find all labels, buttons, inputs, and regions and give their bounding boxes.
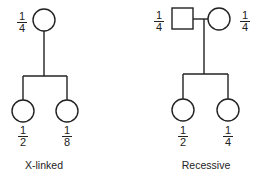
numerator: 1: [152, 11, 166, 20]
xlinked-daughter2-probability: 1 8: [60, 126, 74, 147]
recessive-mother-circle: [208, 8, 230, 30]
recessive-daughter2-probability: 1 4: [221, 126, 235, 147]
numerator: 1: [238, 11, 252, 20]
pedigree-diagram: [0, 0, 261, 177]
denominator: 4: [238, 23, 252, 32]
recessive-mother-probability: 1 4: [238, 11, 252, 32]
denominator: 4: [221, 138, 235, 147]
denominator: 8: [60, 138, 74, 147]
recessive-daughter1-circle: [172, 99, 194, 121]
xlinked-daughter1-probability: 1 2: [16, 126, 30, 147]
denominator: 2: [16, 138, 30, 147]
numerator: 1: [16, 126, 30, 135]
numerator: 1: [221, 126, 235, 135]
xlinked-mother-probability: 1 4: [15, 12, 29, 33]
recessive-father-probability: 1 4: [152, 11, 166, 32]
denominator: 4: [15, 24, 29, 33]
numerator: 1: [15, 12, 29, 21]
xlinked-caption: X-linked: [25, 159, 63, 171]
denominator: 2: [176, 138, 190, 147]
recessive-daughter2-circle: [217, 99, 239, 121]
denominator: 4: [152, 23, 166, 32]
numerator: 1: [176, 126, 190, 135]
xlinked-daughter1-circle: [12, 100, 34, 122]
xlinked-mother-circle: [33, 9, 55, 31]
recessive-caption: Recessive: [182, 159, 230, 171]
numerator: 1: [60, 126, 74, 135]
xlinked-daughter2-circle: [56, 100, 78, 122]
recessive-daughter1-probability: 1 2: [176, 126, 190, 147]
recessive-father-square: [172, 8, 193, 29]
